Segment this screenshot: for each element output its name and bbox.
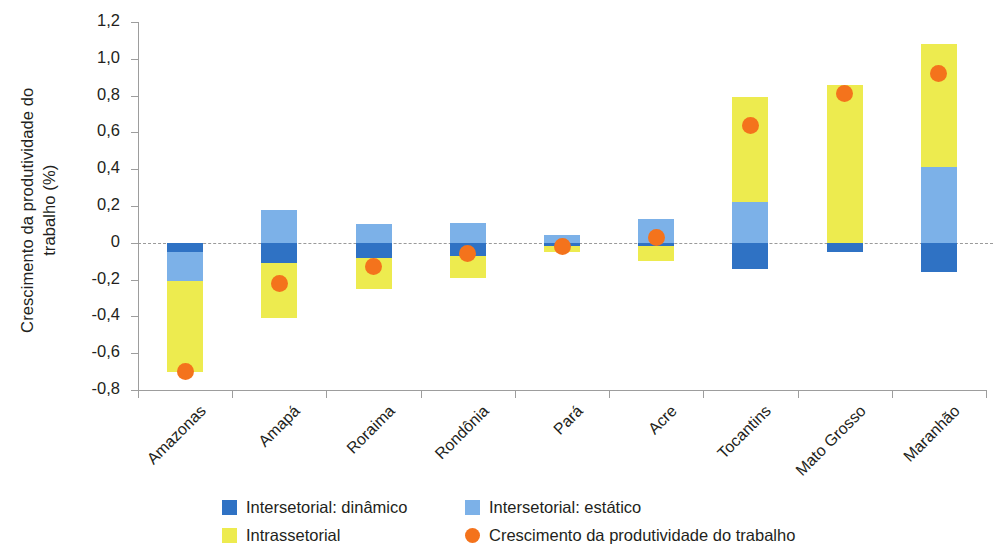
bar-segment: [921, 243, 957, 272]
bar-segment: [261, 243, 297, 263]
y-tick: [131, 206, 139, 207]
bar-segment: [167, 252, 203, 281]
legend-label: Intersetorial: dinâmico: [246, 498, 407, 517]
y-tick-label: 0,6: [62, 121, 120, 140]
legend-label: Intersetorial: estático: [489, 498, 641, 517]
bar-segment: [921, 167, 957, 242]
bar-segment: [261, 210, 297, 243]
y-axis-title-line2: trabalho (%): [38, 10, 60, 410]
bar-segment: [732, 97, 768, 202]
chart-root: Crescimento da produtividade do trabalho…: [0, 0, 1002, 553]
bar-segment: [638, 246, 674, 261]
y-tick: [131, 96, 139, 97]
x-tick: [138, 390, 139, 398]
y-tick: [131, 169, 139, 170]
y-tick-label: 0,2: [62, 195, 120, 214]
x-tick: [703, 390, 704, 398]
legend-item[interactable]: Intersetorial: dinâmico: [222, 498, 407, 517]
x-tick: [892, 390, 893, 398]
x-tick: [986, 390, 987, 398]
y-tick-label: 1,2: [62, 11, 120, 30]
bar-segment: [167, 281, 203, 371]
y-tick-label: 0,8: [62, 85, 120, 104]
y-tick: [131, 353, 139, 354]
legend-item[interactable]: Intrassetorial: [222, 526, 340, 545]
bar-segment: [827, 85, 863, 243]
legend-label: Intrassetorial: [246, 526, 340, 545]
y-tick-label: 0,4: [62, 158, 120, 177]
legend-swatch-icon: [222, 500, 237, 515]
x-tick: [421, 390, 422, 398]
y-tick: [131, 316, 139, 317]
legend-circle-icon: [465, 528, 480, 543]
y-tick-label: -0,6: [62, 342, 120, 361]
y-tick: [131, 22, 139, 23]
bar-segment: [356, 243, 392, 258]
legend-item[interactable]: Intersetorial: estático: [465, 498, 641, 517]
productivity-growth-marker: [271, 275, 288, 292]
productivity-growth-marker: [648, 229, 665, 246]
bar-segment: [167, 243, 203, 252]
y-tick: [131, 280, 139, 281]
bar-segment: [827, 243, 863, 252]
y-tick: [131, 132, 139, 133]
y-tick-label: -0,8: [62, 379, 120, 398]
y-tick-label: -0,4: [62, 305, 120, 324]
y-axis-title-line1: Crescimento da produtividade do: [16, 10, 38, 410]
y-tick-label: 1,0: [62, 48, 120, 67]
y-tick-label: 0: [62, 232, 120, 251]
bar-segment: [732, 202, 768, 242]
legend-swatch-icon: [222, 528, 237, 543]
x-tick: [609, 390, 610, 398]
productivity-growth-marker: [554, 238, 571, 255]
y-tick: [131, 59, 139, 60]
bar-segment: [921, 44, 957, 167]
x-tick: [798, 390, 799, 398]
productivity-growth-marker: [177, 363, 194, 380]
bar-segment: [356, 224, 392, 242]
productivity-growth-marker: [742, 117, 759, 134]
y-tick-label: -0,2: [62, 269, 120, 288]
x-axis-line: [138, 390, 986, 391]
legend-swatch-icon: [465, 500, 480, 515]
y-axis-title: Crescimento da produtividade do trabalho…: [16, 10, 61, 410]
x-tick: [326, 390, 327, 398]
legend-label: Crescimento da produtividade do trabalho: [489, 526, 795, 545]
bar-segment: [732, 243, 768, 269]
bar-segment: [450, 223, 486, 243]
legend-item[interactable]: Crescimento da produtividade do trabalho: [465, 526, 795, 545]
x-tick: [232, 390, 233, 398]
x-tick: [515, 390, 516, 398]
